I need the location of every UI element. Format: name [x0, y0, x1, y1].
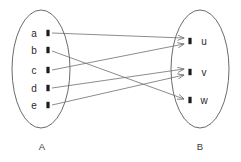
set-b-ellipse — [171, 10, 229, 128]
node-label-a: a — [31, 28, 37, 39]
node-dot-a[interactable] — [46, 30, 49, 36]
set-b-labels: u v w — [199, 36, 208, 106]
node-dot-v[interactable] — [188, 69, 191, 75]
set-label-b: B — [197, 141, 203, 152]
edge-d-v — [52, 69, 184, 88]
set-a-group: a b c d e — [12, 10, 70, 128]
edge-a-u — [52, 33, 184, 38]
mapping-diagram: a b c d e u v w A B — [0, 0, 241, 162]
node-label-b: b — [31, 45, 37, 56]
node-dot-d[interactable] — [46, 85, 49, 91]
mapping-edges — [52, 33, 184, 105]
edge-e-v — [52, 75, 184, 105]
edge-c-u — [52, 44, 184, 70]
set-a-nodes — [46, 30, 49, 108]
node-label-e: e — [31, 100, 37, 111]
node-label-d: d — [31, 83, 37, 94]
node-label-w: w — [199, 95, 208, 106]
set-b-group: u v w — [171, 10, 229, 128]
mapping-diagram-canvas: a b c d e u v w A B — [0, 0, 241, 162]
node-label-v: v — [202, 67, 207, 78]
node-dot-e[interactable] — [46, 102, 49, 108]
set-label-a: A — [39, 141, 46, 152]
node-label-u: u — [201, 36, 207, 47]
edge-b-w — [52, 51, 184, 99]
set-a-labels: a b c d e — [31, 28, 37, 111]
node-label-c: c — [32, 65, 37, 76]
set-b-nodes — [188, 38, 191, 103]
node-dot-u[interactable] — [188, 38, 191, 44]
node-dot-c[interactable] — [46, 67, 49, 73]
node-dot-b[interactable] — [46, 47, 49, 53]
set-a-ellipse — [12, 10, 70, 128]
node-dot-w[interactable] — [188, 97, 191, 103]
